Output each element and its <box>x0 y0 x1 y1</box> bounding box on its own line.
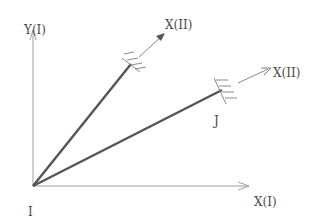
origin-label-i: I <box>28 206 33 218</box>
coordinate-diagram <box>0 0 320 224</box>
x-axis-label: X(I) <box>254 196 277 208</box>
local-axis-lower <box>238 69 268 83</box>
node-label-j: J <box>214 115 219 127</box>
member-lower <box>33 90 222 186</box>
member-upper <box>33 64 131 186</box>
local-x-label-upper: X(II) <box>165 19 192 31</box>
y-axis-label: Y(I) <box>24 24 46 36</box>
local-x-label-lower: X(II) <box>273 67 300 79</box>
